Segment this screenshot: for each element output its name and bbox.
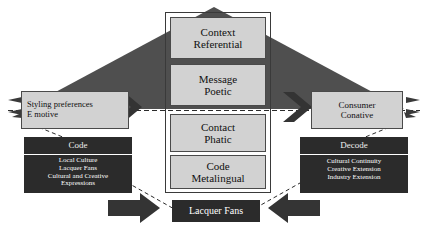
- right-dark-panel-items: Cultural Continuity Creative Extension I…: [300, 155, 408, 193]
- center-box-context-line1: Context: [201, 26, 236, 38]
- bottom-box-lacquer-fans[interactable]: Lacquer Fans: [172, 200, 260, 222]
- sender-box-line2: E motive: [27, 110, 58, 120]
- block-arrow-left-icon: [268, 193, 320, 223]
- left-dark-panel-header: Code: [24, 137, 132, 155]
- center-box-contact-line1: Contact: [201, 121, 235, 133]
- receiver-box-consumer-conative[interactable]: Consumer Conative: [311, 91, 403, 129]
- receiver-box-line2: Conative: [341, 110, 374, 120]
- bottom-box-label: Lacquer Fans: [189, 205, 243, 216]
- center-box-message-line1: Message: [199, 73, 238, 85]
- diagram-canvas: Context Referential Message Poetic Conta…: [0, 0, 428, 241]
- sender-box-styling-preferences[interactable]: Styling preferences E motive: [21, 91, 129, 129]
- center-box-context-line2: Referential: [194, 38, 243, 50]
- right-dark-panel-decode[interactable]: Decode Cultural Continuity Creative Exte…: [300, 137, 408, 193]
- right-dark-panel-header: Decode: [300, 137, 408, 155]
- center-box-code-line1: Code: [206, 160, 229, 172]
- small-arrowhead-right-icon: [404, 97, 420, 118]
- right-dark-item-2: Industry Extension: [327, 174, 380, 182]
- block-arrow-right-icon: [108, 193, 160, 223]
- center-box-contact-line2: Phatic: [204, 133, 232, 145]
- receiver-box-line1: Consumer: [339, 100, 376, 110]
- center-box-code-line2: Metalingual: [191, 172, 244, 184]
- center-box-code-metalingual[interactable]: Code Metalingual: [170, 155, 266, 189]
- center-box-context[interactable]: Context Referential: [170, 17, 266, 59]
- center-box-message[interactable]: Message Poetic: [170, 64, 266, 106]
- left-dark-panel-code[interactable]: Code Local Culture Lacquer Fans Cultural…: [24, 137, 132, 193]
- center-box-contact[interactable]: Contact Phatic: [170, 114, 266, 152]
- left-dark-panel-items: Local Culture Lacquer Fans Cultural and …: [24, 155, 132, 193]
- center-box-message-line2: Poetic: [204, 85, 232, 97]
- left-dark-item-3: Expressions: [61, 180, 95, 188]
